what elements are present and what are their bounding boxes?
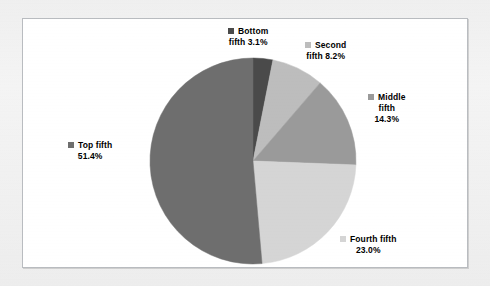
- pie-label-bottom-fifth: Bottom fifth 3.1%: [228, 26, 268, 48]
- pie-label-middle-fifth: Middle fifth 14.3%: [368, 92, 406, 125]
- legend-swatch-middle-fifth: [368, 94, 374, 100]
- pie-label-second-fifth-name: Second: [315, 40, 346, 50]
- pie-label-top-fifth-name: Top fifth: [78, 140, 112, 150]
- pie-label-fourth-fifth-value: 23.0%: [340, 245, 397, 256]
- pie-slices-group: [150, 58, 356, 264]
- legend-swatch-bottom-fifth: [228, 28, 234, 34]
- pie-label-middle-fifth-value: 14.3%: [368, 114, 406, 125]
- pie-label-bottom-fifth-value: fifth 3.1%: [228, 37, 268, 48]
- pie-label-fourth-fifth-name: Fourth fifth: [350, 234, 397, 244]
- pie-label-fourth-fifth-line1: Fourth fifth: [340, 234, 397, 245]
- pie-label-bottom-fifth-name: Bottom: [238, 26, 268, 36]
- pie-label-bottom-fifth-line1: Bottom: [228, 26, 268, 37]
- pie-label-middle-fifth-name: Middle: [378, 92, 406, 102]
- pie-label-middle-fifth-line1: Middle: [368, 92, 406, 103]
- pie-label-fourth-fifth: Fourth fifth 23.0%: [340, 234, 397, 256]
- pie-label-second-fifth: Second fifth 8.2%: [305, 40, 346, 62]
- pie-label-top-fifth-value: 51.4%: [68, 151, 112, 162]
- pie-slice-top-fifth: [150, 58, 262, 264]
- pie-label-middle-fifth-line2: fifth: [368, 103, 406, 114]
- pie-label-top-fifth-line1: Top fifth: [68, 140, 112, 151]
- pie-chart-figure: Bottom fifth 3.1% Second fifth 8.2% Midd…: [0, 0, 490, 286]
- pie-label-second-fifth-value: fifth 8.2%: [305, 51, 346, 62]
- legend-swatch-fourth-fifth: [340, 236, 346, 242]
- pie-label-top-fifth: Top fifth 51.4%: [68, 140, 112, 162]
- legend-swatch-second-fifth: [305, 42, 311, 48]
- pie-label-second-fifth-line1: Second: [305, 40, 346, 51]
- legend-swatch-top-fifth: [68, 142, 74, 148]
